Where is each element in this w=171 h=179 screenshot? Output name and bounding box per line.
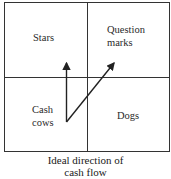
caption-line1: Ideal direction of: [0, 154, 171, 166]
question-marks-label-line1: Question: [107, 24, 145, 36]
stars-label: Stars: [33, 32, 54, 44]
cash-cows-label-line2: cows: [32, 117, 54, 129]
caption-line2: cash flow: [0, 166, 171, 178]
dogs-label: Dogs: [117, 110, 139, 122]
cash-cows-label-line1: Cash: [32, 104, 53, 116]
matrix-diagram: [0, 0, 171, 179]
arrow-to-question-marks: [67, 63, 115, 122]
question-marks-label-line2: marks: [107, 37, 133, 49]
